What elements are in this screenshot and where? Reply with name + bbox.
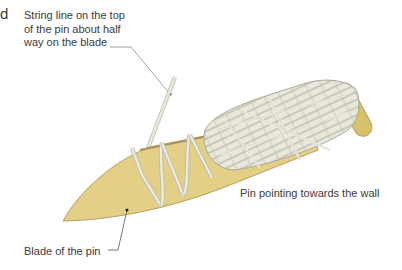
pin-illustration [0, 0, 402, 270]
blade-leader-dot [126, 209, 129, 212]
yarn-bundle [204, 80, 359, 170]
string-leader-line [110, 47, 170, 94]
